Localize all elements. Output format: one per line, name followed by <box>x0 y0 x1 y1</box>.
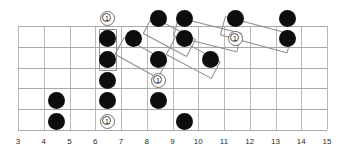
fret-number-label-13: 13 <box>268 137 284 147</box>
note-dot-fret10-string3[interactable] <box>202 51 219 68</box>
fret-number-label-6: 6 <box>87 137 103 147</box>
fret-number-label-8: 8 <box>139 137 155 147</box>
note-dot-fret4-string5[interactable] <box>48 92 65 109</box>
note-dot-fret6-string4[interactable] <box>99 72 116 89</box>
note-dot-fret11-string1[interactable] <box>227 10 244 27</box>
fret-number-label-3: 3 <box>10 137 26 147</box>
root-marker-label: 1 <box>105 118 109 125</box>
fret-number-label-10: 10 <box>190 137 206 147</box>
root-marker-label: 1 <box>156 77 160 84</box>
note-dot-fret4-string6[interactable] <box>48 113 65 130</box>
note-dot-fret8-string5[interactable] <box>150 92 167 109</box>
root-marker-fret6-string1[interactable]: 1 <box>100 11 115 26</box>
note-dot-fret8-string1[interactable] <box>150 10 167 27</box>
note-dot-fret6-string2[interactable] <box>99 30 116 47</box>
note-dot-fret9-string1[interactable] <box>176 10 193 27</box>
root-marker-label: 1 <box>233 35 237 42</box>
fretboard-diagram: 34567891011121314151111 <box>0 0 346 152</box>
fretboard-overlay: 34567891011121314151111 <box>0 0 346 152</box>
fret-number-label-9: 9 <box>165 137 181 147</box>
note-dot-fret8-string3[interactable] <box>150 51 167 68</box>
root-marker-fret11-string2[interactable]: 1 <box>228 31 243 46</box>
fret-number-label-4: 4 <box>36 137 52 147</box>
note-dot-fret6-string5[interactable] <box>99 92 116 109</box>
root-marker-fret6-string6[interactable]: 1 <box>100 114 115 129</box>
note-dot-fret9-string2[interactable] <box>176 30 193 47</box>
fret-number-label-15: 15 <box>319 137 335 147</box>
root-marker-fret8-string4[interactable]: 1 <box>151 73 166 88</box>
fret-number-label-5: 5 <box>62 137 78 147</box>
fret-number-label-14: 14 <box>293 137 309 147</box>
fret-number-label-12: 12 <box>242 137 258 147</box>
fret-number-label-11: 11 <box>216 137 232 147</box>
note-dot-fret13-string1[interactable] <box>279 10 296 27</box>
root-marker-label: 1 <box>105 15 109 22</box>
note-dot-fret13-string2[interactable] <box>279 30 296 47</box>
fret-number-label-7: 7 <box>113 137 129 147</box>
note-dot-fret6-string3[interactable] <box>99 51 116 68</box>
note-dot-fret7-string2[interactable] <box>125 30 142 47</box>
note-dot-fret9-string6[interactable] <box>176 113 193 130</box>
